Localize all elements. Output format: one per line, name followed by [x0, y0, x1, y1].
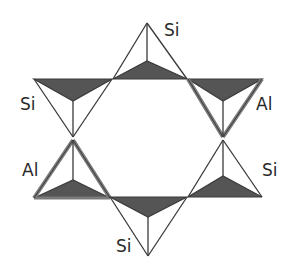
tetrahedron-lower-left-al	[34, 140, 110, 198]
label-lower-left-al: Al	[22, 160, 38, 180]
tetrahedron-upper-left	[34, 79, 112, 137]
label-upper-right-al: Al	[256, 94, 272, 114]
label-bottom-si: Si	[116, 236, 132, 256]
label-upper-left-si: Si	[20, 94, 36, 114]
tetrahedron-upper-right-al	[188, 79, 262, 137]
tetrahedron-lower-right	[188, 140, 262, 197]
label-top-si: Si	[164, 20, 180, 40]
tetrahedra-ring-diagram: Si Si Al Al Si Si	[0, 0, 295, 272]
label-lower-right-si: Si	[262, 160, 278, 180]
